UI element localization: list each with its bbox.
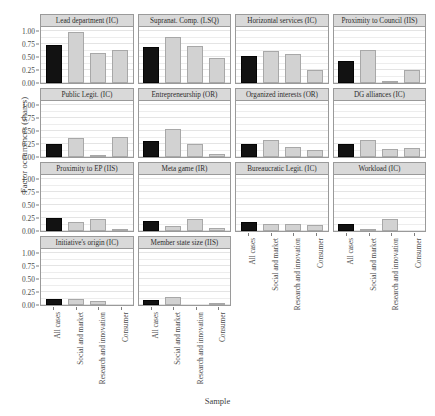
facet-bar-chart: Factor occurrences (shares) Sample Lead … (0, 0, 435, 416)
bar[interactable] (90, 301, 106, 305)
bar[interactable] (187, 46, 203, 83)
bar[interactable] (68, 138, 84, 157)
y-tick-mark (36, 31, 39, 32)
x-tick-label: All cases (53, 312, 62, 339)
bar[interactable] (263, 224, 279, 231)
bar[interactable] (285, 54, 301, 83)
bar[interactable] (360, 50, 376, 83)
x-tick-mark (271, 233, 272, 236)
facet-strip-label: Public Legit. (IC) (40, 88, 134, 100)
bar[interactable] (68, 222, 84, 231)
facet-strip-label: DG alliances (IC) (333, 88, 427, 100)
plot-area (138, 174, 232, 232)
bar[interactable] (46, 144, 62, 157)
bar[interactable] (307, 150, 323, 157)
bar[interactable] (165, 226, 181, 231)
bar[interactable] (143, 221, 159, 231)
x-axis-ticks: All casesSocial and marketResearch and i… (138, 307, 232, 416)
x-tick-mark (414, 233, 415, 236)
bar[interactable] (382, 149, 398, 157)
bar[interactable] (360, 229, 376, 231)
x-tick-mark (369, 233, 370, 236)
bar[interactable] (307, 70, 323, 83)
x-tick-label: Social and market (76, 312, 85, 365)
bar[interactable] (46, 45, 62, 83)
bar[interactable] (90, 219, 106, 231)
plot-area (40, 100, 134, 158)
facet-panel: Meta game (IR) (138, 162, 232, 232)
facet-strip-label: Member state size (IIS) (138, 236, 232, 248)
x-tick-label: Research and innovation (391, 238, 400, 310)
bar[interactable] (285, 147, 301, 157)
bar[interactable] (338, 61, 354, 83)
bar[interactable] (68, 32, 84, 83)
bar[interactable] (382, 81, 398, 83)
bar[interactable] (338, 224, 354, 231)
bar-series (41, 27, 133, 83)
y-tick-label: 0.50 (22, 275, 35, 284)
x-axis-ticks: All casesSocial and marketResearch and i… (235, 233, 329, 353)
bar[interactable] (68, 299, 84, 305)
x-tick-label: Research and innovation (293, 238, 302, 310)
y-tick-label: 1.00 (22, 175, 35, 184)
y-tick-label: 0.25 (22, 214, 35, 223)
y-axis-ticks: 0.000.250.500.751.00 (0, 100, 40, 158)
bar[interactable] (404, 148, 420, 157)
bar[interactable] (263, 140, 279, 157)
bar[interactable] (112, 50, 128, 83)
bar[interactable] (112, 137, 128, 157)
x-tick-label: Social and market (369, 238, 378, 291)
bar[interactable] (143, 141, 159, 157)
bar[interactable] (241, 56, 257, 83)
bar[interactable] (165, 297, 181, 305)
x-tick-label: Consumer (316, 238, 325, 268)
bar[interactable] (209, 58, 225, 83)
bar[interactable] (360, 140, 376, 157)
bar[interactable] (46, 218, 62, 231)
bar[interactable] (187, 219, 203, 231)
bar[interactable] (263, 51, 279, 83)
x-tick-label: Consumer (218, 312, 227, 342)
facet-panel: Lead department (IC) (40, 14, 134, 84)
bar[interactable] (209, 154, 225, 157)
bar[interactable] (143, 300, 159, 305)
bar[interactable] (209, 303, 225, 305)
y-tick-label: 1.00 (22, 101, 35, 110)
y-tick-mark (36, 57, 39, 58)
bar[interactable] (404, 70, 420, 83)
x-tick: All cases (336, 233, 356, 239)
bar[interactable] (165, 129, 181, 157)
bar[interactable] (90, 53, 106, 83)
bar[interactable] (46, 299, 62, 305)
y-tick-label: 0.00 (22, 153, 35, 162)
y-tick-label: 0.25 (22, 288, 35, 297)
bar[interactable] (165, 37, 181, 83)
facet-strip-label: Initiative's origin (IC) (40, 236, 134, 248)
x-tick-label: Research and innovation (196, 312, 205, 384)
bar[interactable] (187, 144, 203, 157)
bar[interactable] (241, 222, 257, 231)
bar[interactable] (112, 229, 128, 231)
bar[interactable] (90, 155, 106, 157)
x-tick-mark (316, 233, 317, 236)
x-tick-mark (218, 307, 219, 310)
facet-strip-label: Workload (IC) (333, 162, 427, 174)
x-tick: All cases (141, 307, 161, 313)
bar[interactable] (209, 228, 225, 231)
bar[interactable] (338, 144, 354, 157)
plot-area (333, 174, 427, 232)
bar[interactable] (285, 224, 301, 231)
bar-series (334, 27, 426, 83)
y-tick-mark (36, 292, 39, 293)
bar[interactable] (241, 144, 257, 157)
y-tick-label: 0.75 (22, 262, 35, 271)
y-tick-mark (36, 253, 39, 254)
bar[interactable] (307, 225, 323, 231)
y-tick-label: 1.00 (22, 249, 35, 258)
bar[interactable] (143, 47, 159, 83)
facet-strip-label: Supranat. Comp. (LSQ) (138, 14, 232, 26)
x-tick-label: Social and market (271, 238, 280, 291)
bar[interactable] (382, 219, 398, 231)
y-tick-label: 0.75 (22, 114, 35, 123)
x-tick: All cases (43, 307, 63, 313)
